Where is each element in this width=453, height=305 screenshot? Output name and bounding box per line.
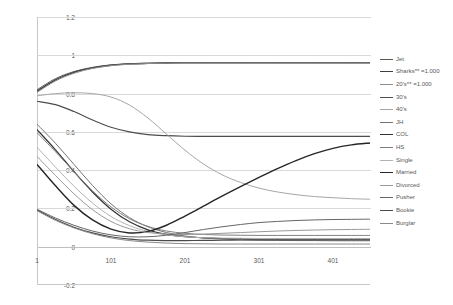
legend-swatch-line-icon bbox=[380, 84, 393, 85]
legend-label: Jet bbox=[396, 56, 404, 63]
legend-item-sharks-1-000[interactable]: Sharks** =1.000 bbox=[380, 66, 453, 79]
legend-item-hs[interactable]: HS bbox=[380, 141, 453, 154]
legend-swatch-line-icon bbox=[380, 59, 393, 60]
legend-item-married[interactable]: Married bbox=[380, 166, 453, 179]
legend-item-40-s[interactable]: 40's bbox=[380, 103, 453, 116]
series-line-20-s-1-000 bbox=[37, 63, 370, 92]
x-axis-tick-1: 1 bbox=[22, 257, 52, 264]
legend-item-single[interactable]: Single bbox=[380, 154, 453, 167]
legend-label: 30's bbox=[396, 94, 407, 101]
series-line-jet bbox=[37, 63, 370, 90]
legend-swatch-line-icon bbox=[380, 210, 393, 211]
legend-item-divorced[interactable]: Divorced bbox=[380, 179, 453, 192]
x-axis-tick-401: 401 bbox=[318, 257, 348, 264]
legend-swatch-line-icon bbox=[380, 71, 393, 72]
legend-label: Burglar bbox=[396, 220, 415, 227]
legend-swatch-line-icon bbox=[380, 109, 393, 110]
x-axis-tick-201: 201 bbox=[170, 257, 200, 264]
legend-label: Single bbox=[396, 157, 413, 164]
legend-swatch-line-icon bbox=[380, 223, 393, 224]
series-line-pusher bbox=[37, 209, 370, 237]
legend-item-20-s-1-000[interactable]: 20's** =1.000 bbox=[380, 78, 453, 91]
legend-swatch-line-icon bbox=[380, 160, 393, 161]
y-axis-tick--0.2: -0.2 bbox=[41, 285, 75, 292]
x-axis-tick-301: 301 bbox=[244, 257, 274, 264]
chart-legend: JetSharks** =1.00020's** =1.00030's40'sJ… bbox=[380, 53, 453, 229]
legend-label: COL bbox=[396, 131, 408, 138]
legend-swatch-line-icon bbox=[380, 134, 393, 135]
series-line-jh bbox=[37, 124, 370, 241]
series-line-sharks-1-000 bbox=[37, 63, 370, 92]
series-line-single bbox=[37, 147, 370, 238]
legend-label: Married bbox=[396, 169, 416, 176]
legend-label: 40's bbox=[396, 106, 407, 113]
legend-label: Divorced bbox=[396, 182, 420, 189]
legend-label: Bookie bbox=[396, 207, 414, 214]
legend-swatch-line-icon bbox=[380, 97, 393, 98]
x-axis-tick-101: 101 bbox=[96, 257, 126, 264]
legend-swatch-line-icon bbox=[380, 185, 393, 186]
legend-item-30-s[interactable]: 30's bbox=[380, 91, 453, 104]
legend-label: JH bbox=[396, 119, 403, 126]
legend-swatch-line-icon bbox=[380, 197, 393, 198]
legend-swatch-line-icon bbox=[380, 172, 393, 173]
series-line-divorced bbox=[37, 156, 370, 234]
legend-label: Sharks** =1.000 bbox=[396, 68, 440, 75]
legend-swatch-line-icon bbox=[380, 122, 393, 123]
legend-swatch-line-icon bbox=[380, 147, 393, 148]
legend-label: HS bbox=[396, 144, 404, 151]
chart-screenshot: 1.210.80.60.40.20-0.2 1101201301401 JetS… bbox=[0, 0, 453, 305]
legend-item-jet[interactable]: Jet bbox=[380, 53, 453, 66]
legend-label: 20's** =1.000 bbox=[396, 81, 432, 88]
line-chart-series bbox=[37, 17, 370, 285]
legend-item-burglar[interactable]: Burglar bbox=[380, 217, 453, 230]
series-line-40-s bbox=[37, 93, 370, 199]
legend-item-pusher[interactable]: Pusher bbox=[380, 192, 453, 205]
series-line-30-s bbox=[37, 101, 370, 136]
series-line-col bbox=[37, 130, 370, 239]
legend-item-jh[interactable]: JH bbox=[380, 116, 453, 129]
legend-label: Pusher bbox=[396, 194, 415, 201]
legend-item-col[interactable]: COL bbox=[380, 129, 453, 142]
legend-item-bookie[interactable]: Bookie bbox=[380, 204, 453, 217]
series-line-bookie bbox=[37, 210, 370, 241]
